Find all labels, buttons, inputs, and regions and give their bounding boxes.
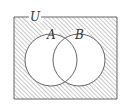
universal-set-shading — [14, 17, 117, 99]
universal-set-label: U — [30, 10, 41, 24]
venn-diagram: U A B — [0, 0, 129, 105]
set-b-label: B — [74, 28, 84, 42]
set-a-label: A — [46, 28, 56, 42]
